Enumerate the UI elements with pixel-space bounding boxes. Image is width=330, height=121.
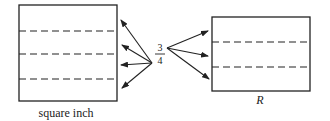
arrow-icon (122, 45, 152, 63)
left-arrows (121, 20, 152, 88)
fraction-label: 3 4 (155, 42, 165, 66)
right-arrows (167, 31, 209, 79)
fraction-denominator: 4 (158, 55, 163, 66)
r-box (212, 17, 310, 91)
arrow-icon (167, 31, 208, 48)
r-label: R (255, 93, 264, 107)
diagram-canvas: 3 4 square inch R (0, 0, 330, 121)
arrow-icon (122, 63, 152, 88)
square-inch-box (19, 5, 117, 101)
fraction-numerator: 3 (158, 42, 163, 53)
arrow-icon (121, 63, 152, 65)
square-inch-label: square inch (39, 106, 94, 120)
arrow-icon (121, 20, 152, 63)
